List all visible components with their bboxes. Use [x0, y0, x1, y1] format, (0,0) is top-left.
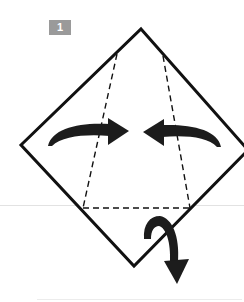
fold-diagram	[0, 0, 244, 302]
paper-outline	[21, 29, 244, 266]
